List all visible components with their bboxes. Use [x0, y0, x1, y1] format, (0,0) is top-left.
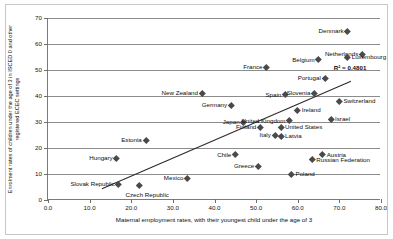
data-point-label: Luxembourg: [352, 54, 386, 60]
x-tick-label: 30.0: [167, 205, 179, 211]
x-tick-label: 0.0: [44, 205, 53, 211]
data-point-label: Slovenia: [287, 90, 311, 96]
data-point-label: Spain: [265, 92, 281, 98]
x-axis-title: Maternal employment rates, with their yo…: [48, 217, 380, 223]
x-tick-label: 80.0: [375, 205, 387, 211]
data-point-label: Finland: [236, 124, 256, 130]
x-tick-mark: [339, 199, 340, 203]
y-tick-label: 10: [35, 171, 42, 177]
y-tick-label: 30: [35, 119, 42, 125]
data-point-label: Russian Federation: [316, 157, 370, 163]
data-point-label: Mexico: [164, 175, 184, 181]
data-point-label: Estonia: [121, 137, 142, 143]
x-tick-label: 10.0: [84, 205, 96, 211]
x-tick-label: 70.0: [333, 205, 345, 211]
x-tick-mark: [48, 199, 49, 203]
y-tick-label: 20: [35, 145, 42, 151]
data-point-label: Switzerland: [343, 98, 375, 104]
data-point-label: Germany: [202, 102, 227, 108]
data-point-label: Latvia: [285, 133, 302, 139]
scatter-chart: Enrolment rates of children under the ag…: [0, 0, 393, 239]
data-point-label: Denmark: [319, 28, 344, 34]
data-point-label: Hungary: [89, 155, 112, 161]
x-tick-mark: [215, 199, 216, 203]
plot-area: Enrolment rates of children under the ag…: [47, 18, 380, 200]
data-point-label: Portugal: [298, 75, 321, 81]
r-squared-annotation: R² = 0.4801: [334, 65, 367, 71]
x-tick-label: 20.0: [125, 205, 137, 211]
y-tick-label: 40: [35, 93, 42, 99]
x-tick-mark: [90, 199, 91, 203]
y-tick-label: 50: [35, 67, 42, 73]
x-tick-mark: [256, 199, 257, 203]
x-tick-label: 50.0: [250, 205, 262, 211]
data-point-label: Ireland: [302, 107, 321, 113]
data-point-label: Belgium: [292, 56, 314, 62]
x-tick-mark: [298, 199, 299, 203]
y-tick-label: 70: [35, 15, 42, 21]
data-point-label: Czech Republic: [126, 192, 169, 198]
trendline: [48, 18, 380, 199]
data-point-label: Italy: [259, 132, 270, 138]
x-tick-label: 60.0: [292, 205, 304, 211]
data-point-label: Chile: [217, 151, 231, 157]
data-point-label: Poland: [296, 171, 315, 177]
data-point-label: France: [243, 64, 262, 70]
y-tick-label: 60: [35, 41, 42, 47]
x-tick-mark: [381, 199, 382, 203]
y-tick-label: 0: [39, 197, 42, 203]
data-point-label: United States: [285, 124, 322, 130]
data-point-label: Greece: [234, 163, 254, 169]
data-point-label: Israel: [335, 116, 350, 122]
x-tick-label: 40.0: [208, 205, 220, 211]
data-point-label: New Zealand: [162, 90, 198, 96]
y-axis-title: Enrolment rates of children under the ag…: [7, 21, 21, 197]
x-tick-mark: [173, 199, 174, 203]
data-point-label: Slovak Republic: [70, 181, 114, 187]
x-tick-mark: [131, 199, 132, 203]
